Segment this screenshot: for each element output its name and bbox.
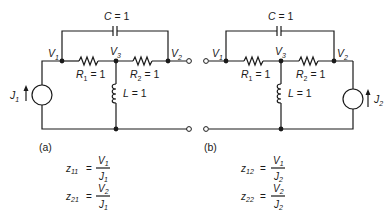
svg-text:V2: V2 xyxy=(273,183,284,195)
current-source-j1: J1 xyxy=(9,85,52,105)
resistor-r2-icon xyxy=(299,57,318,65)
svg-text:J2: J2 xyxy=(273,199,283,211)
source-label-b: J2 xyxy=(373,93,383,107)
svg-text:z12: z12 xyxy=(240,163,254,175)
svg-text:V1: V1 xyxy=(98,155,109,167)
arrow-up-icon xyxy=(366,89,371,95)
svg-text:J2: J2 xyxy=(273,171,283,183)
svg-text:=: = xyxy=(86,163,92,174)
terminal-port1-bottom-b xyxy=(204,127,209,132)
svg-text:J1: J1 xyxy=(98,171,108,183)
arrow-up-icon xyxy=(24,85,29,91)
equation-z21: z21 = V2 J1 xyxy=(65,183,110,211)
current-source-icon xyxy=(32,85,52,105)
resistor-r1-icon xyxy=(79,57,98,65)
capacitor-label-b: C = 1 xyxy=(268,10,294,22)
svg-text:=: = xyxy=(260,191,266,202)
equation-z22: z22 = V2 J2 xyxy=(240,183,285,211)
panel-a: C = 1 J1 R1 = 1 R2 = 1 L = 1 xyxy=(9,10,191,211)
svg-text:V2: V2 xyxy=(98,183,109,195)
v1-label-a: V1 xyxy=(48,47,59,61)
inductor-icon xyxy=(277,84,281,103)
current-source-icon xyxy=(343,89,363,109)
svg-text:z22: z22 xyxy=(240,191,254,203)
v2-label-a: V2 xyxy=(171,47,182,61)
v1-label-b: V1 xyxy=(212,47,223,61)
node-v3-a xyxy=(114,59,119,64)
panel-b: C = 1 R1 = 1 R2 = 1 J2 L = 1 V1 xyxy=(204,10,384,211)
terminal-port2-top-a xyxy=(187,59,192,64)
capacitor-label-a: C = 1 xyxy=(104,10,130,22)
svg-text:z21: z21 xyxy=(65,191,79,203)
svg-text:V1: V1 xyxy=(273,155,284,167)
node-v2-a xyxy=(166,59,171,64)
r2-label-b: R2 = 1 xyxy=(296,68,325,82)
svg-text:J1: J1 xyxy=(98,199,108,211)
r1-label-b: R1 = 1 xyxy=(241,68,270,82)
resistor-r1-icon xyxy=(244,57,263,65)
svg-text:z11: z11 xyxy=(65,163,78,175)
node-v1-a xyxy=(60,59,65,64)
v3-label-b: V3 xyxy=(275,45,286,59)
r2-label-a: R2 = 1 xyxy=(130,68,159,82)
r1-label-a: R1 = 1 xyxy=(76,68,105,82)
caption-b: (b) xyxy=(204,141,217,153)
inductor-label-a: L = 1 xyxy=(123,87,147,99)
inductor-label-b: L = 1 xyxy=(288,87,312,99)
current-source-j2: J2 xyxy=(343,89,383,109)
v2-label-b: V2 xyxy=(337,47,348,61)
caption-a: (a) xyxy=(39,141,52,153)
resistor-r2-icon xyxy=(133,57,152,65)
terminal-port2-bottom-a xyxy=(187,127,192,132)
node-v1-b xyxy=(224,59,229,64)
node-v3-b xyxy=(279,59,284,64)
svg-text:=: = xyxy=(260,163,266,174)
equation-z11: z11 = V1 J1 xyxy=(65,155,110,183)
inductor-icon xyxy=(112,84,116,103)
node-v2-b xyxy=(332,59,337,64)
circuit-diagram: C = 1 J1 R1 = 1 R2 = 1 L = 1 xyxy=(0,0,389,222)
equation-z12: z12 = V1 J2 xyxy=(240,155,285,183)
node-ground-a xyxy=(114,127,119,132)
source-label-a: J1 xyxy=(9,89,19,103)
svg-text:=: = xyxy=(86,191,92,202)
node-ground-b xyxy=(279,127,284,132)
terminal-port1-top-b xyxy=(204,59,209,64)
v3-label-a: V3 xyxy=(110,45,121,59)
